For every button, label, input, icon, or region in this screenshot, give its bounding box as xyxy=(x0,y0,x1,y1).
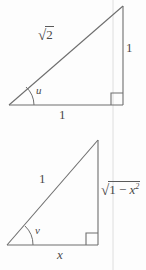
lower-radicand-prefix: 1 − xyxy=(109,182,129,197)
lower-triangle-angle-label: v xyxy=(35,225,40,236)
lower-radicand-exponent: 2 xyxy=(135,182,139,191)
lower-triangle-hypotenuse-label: 1 xyxy=(39,172,46,185)
lower-triangle-right-angle-icon xyxy=(86,233,98,245)
upper-triangle-vertical-leg-label: 1 xyxy=(126,41,133,54)
lower-triangle-angle-arc xyxy=(25,226,33,245)
upper-right-triangle xyxy=(9,6,123,105)
upper-triangle-base-leg-label: 1 xyxy=(59,108,66,121)
lower-right-triangle xyxy=(7,140,98,245)
upper-triangle-hypotenuse xyxy=(9,6,123,105)
lower-triangle-hypotenuse xyxy=(7,140,98,245)
upper-hypotenuse-radicand: 2 xyxy=(45,26,54,42)
lower-triangle-vertical-leg-label: √1 − x2 xyxy=(101,183,140,198)
lower-triangle-base-leg-label: x xyxy=(57,248,63,261)
figure-canvas xyxy=(0,0,146,270)
two-right-triangles-figure: √2 1 1 u 1 √1 − x2 x v xyxy=(0,0,146,270)
upper-triangle-angle-label: u xyxy=(36,85,42,96)
upper-triangle-hypotenuse-label: √2 xyxy=(38,28,54,43)
